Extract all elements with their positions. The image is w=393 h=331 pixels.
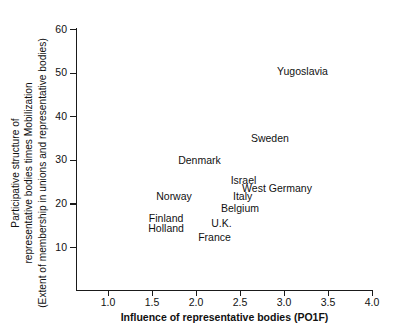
- x-tick-label: 3.5: [308, 297, 348, 308]
- y-tick-mark: [70, 203, 76, 204]
- x-tick-label: 3.0: [264, 297, 304, 308]
- y-axis-line: [76, 28, 77, 291]
- data-point-label: Belgium: [221, 202, 259, 213]
- y-tick-mark: [70, 73, 76, 74]
- y-tick-mark: [70, 247, 76, 248]
- x-tick-label: 4.0: [352, 297, 392, 308]
- data-point-label: U.K.: [211, 217, 231, 228]
- y-axis-title-line-2: representative bodies times Mobilization: [22, 82, 35, 263]
- data-point-label: West Germany: [242, 183, 312, 194]
- x-tick-label: 2.0: [176, 297, 216, 308]
- scatter-plot-figure: 102030405060 1.01.52.02.53.03.54.0 Yugos…: [0, 0, 393, 331]
- y-axis-title: Participative structure of representativ…: [6, 23, 52, 323]
- data-point-label: Denmark: [178, 154, 221, 165]
- data-point-label: Holland: [148, 223, 184, 234]
- data-point-label: France: [198, 231, 231, 242]
- y-axis-title-line-3: (Extent of membership in unions and repr…: [36, 38, 49, 308]
- y-tick-mark: [70, 160, 76, 161]
- x-tick-label: 1.5: [132, 297, 172, 308]
- data-point-label: Sweden: [251, 133, 289, 144]
- x-tick-label: 1.0: [88, 297, 128, 308]
- y-axis-title-line-1: Participative structure of: [9, 118, 22, 227]
- y-tick-mark: [70, 29, 76, 30]
- x-axis-title: Influence of representative bodies (PO1F…: [76, 311, 373, 323]
- y-tick-mark: [70, 116, 76, 117]
- data-point-label: Italy: [233, 191, 252, 202]
- data-point-label: Yugoslavia: [277, 66, 328, 77]
- x-tick-label: 2.5: [220, 297, 260, 308]
- data-point-label: Norway: [156, 190, 192, 201]
